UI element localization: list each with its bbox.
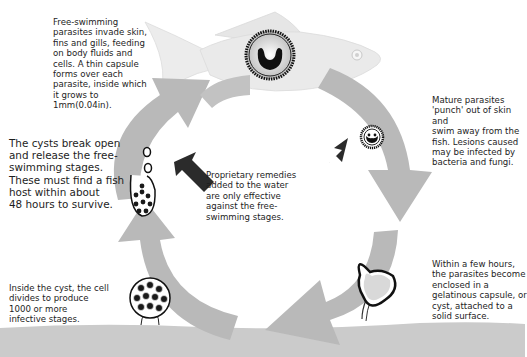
- cyst-icon: [359, 264, 396, 321]
- dividing-cyst-icon: [130, 278, 170, 325]
- ground-surface: [0, 322, 525, 357]
- stage-label-cysts-break-open: The cysts break open and release the fre…: [9, 137, 134, 210]
- stage-label-cell-division: Inside the cyst, the cell divides to pro…: [9, 283, 119, 325]
- stage-label-mature-parasites: Mature parasites 'punch' out of skin and…: [432, 95, 527, 168]
- parasite-in-skin-icon: [246, 31, 294, 79]
- center-note-remedies: Proprietary remedies added to the water …: [206, 170, 306, 222]
- stage-label-cyst-forming: Within a few hours, the parasites become…: [432, 259, 527, 321]
- stage-label-free-swimming-invade: Free-swimming parasites invade skin, fin…: [53, 17, 163, 111]
- mature-parasite-icon: [361, 126, 383, 148]
